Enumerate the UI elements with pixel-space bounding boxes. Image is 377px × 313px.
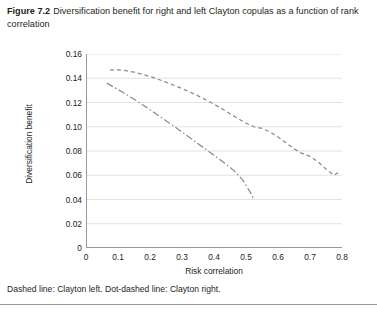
x-tick-label: 0.1 [103,252,133,262]
y-tick-label: 0.14 [42,73,82,83]
plot-area [86,54,342,248]
data-series-group [107,70,339,200]
chart-svg [86,54,342,248]
gridlines [86,54,342,224]
figure-caption-text: Diversification benefit for right and le… [7,6,359,29]
x-tick-label: 0.6 [263,252,293,262]
x-tick-label: 0.4 [199,252,229,262]
y-tick-label: 0.04 [42,195,82,205]
x-tick-label: 0.8 [327,252,357,262]
y-axis-tick-labels: 00.020.040.060.080.100.120.140.16 [40,54,82,248]
figure-number: Figure 7.2 [7,6,50,16]
y-tick-label: 0.06 [42,170,82,180]
x-tick-label: 0.5 [231,252,261,262]
y-tick-label: 0.10 [42,122,82,132]
x-tick-label: 0.7 [295,252,325,262]
figure-note: Dashed line: Clayton left. Dot-dashed li… [7,283,367,295]
figure-container: Figure 7.2Diversification benefit for ri… [0,0,377,313]
series-line-clayton-right [107,83,254,199]
series-line-clayton-left [110,70,339,175]
figure-title: Figure 7.2Diversification benefit for ri… [7,5,367,31]
y-tick-label: 0.16 [42,49,82,59]
y-tick-label: 0.08 [42,146,82,156]
x-tick-label: 0.2 [135,252,165,262]
chart-plot-block: Diversification benefit Risk correlation… [0,44,377,276]
y-axis-label: Diversification benefit [24,84,34,204]
x-tick-label: 0.3 [167,252,197,262]
x-axis-label: Risk correlation [86,266,342,276]
bottom-divider [0,304,377,305]
x-axis-tick-labels: 00.10.20.30.40.50.60.70.8 [86,252,342,266]
x-tick-label: 0 [71,252,101,262]
y-tick-label: 0.02 [42,219,82,229]
y-tick-label: 0.12 [42,98,82,108]
